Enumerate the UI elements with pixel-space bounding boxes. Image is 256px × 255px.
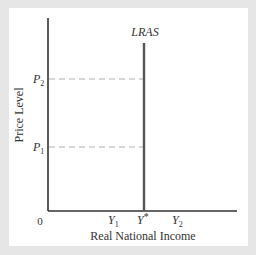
y-axis-title: Price Level (12, 87, 26, 143)
x-axis-title: Real National Income (90, 229, 195, 243)
lras-label: LRAS (130, 25, 158, 39)
chart-svg: LRAS P2 P1 Price Level 0 Y1 Y* Y2 Real N… (0, 0, 256, 255)
origin-label: 0 (37, 215, 43, 227)
y1-label: Y1 (108, 213, 119, 229)
ystar-label: Y* (137, 211, 149, 227)
p2-label: P2 (32, 72, 44, 88)
p1-label: P1 (32, 140, 44, 156)
y2-label: Y2 (172, 213, 183, 229)
